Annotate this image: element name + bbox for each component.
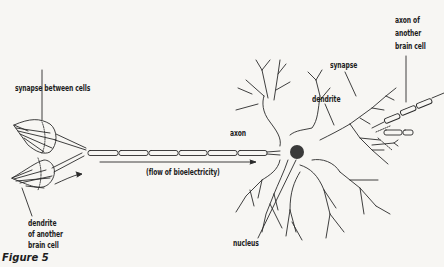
dendrites — [236, 60, 396, 240]
neuron-diagram — [0, 0, 444, 267]
label-nucleus: nucleus — [233, 237, 259, 249]
leader-synapse — [345, 72, 356, 96]
label-axon-other-2: another — [395, 27, 421, 39]
leader-dendrite — [325, 104, 334, 125]
axon-myelin — [88, 151, 280, 156]
label-synapse-between-cells: synapse between cells — [15, 82, 90, 94]
label-dendrite: dendrite — [312, 93, 340, 105]
cell-body — [262, 96, 350, 210]
label-axon: axon — [230, 127, 246, 139]
label-synapse: synapse — [330, 59, 357, 71]
label-axon-other-1: axon of — [395, 14, 420, 26]
label-dendrite-other-3: brain cell — [28, 239, 59, 251]
nucleus — [290, 145, 304, 159]
axon-other-cell — [372, 93, 444, 150]
label-flow: (flow of bioelectricity) — [146, 166, 220, 178]
figure-caption: Figure 5 — [2, 252, 49, 263]
label-axon-other-3: brain cell — [395, 40, 426, 52]
